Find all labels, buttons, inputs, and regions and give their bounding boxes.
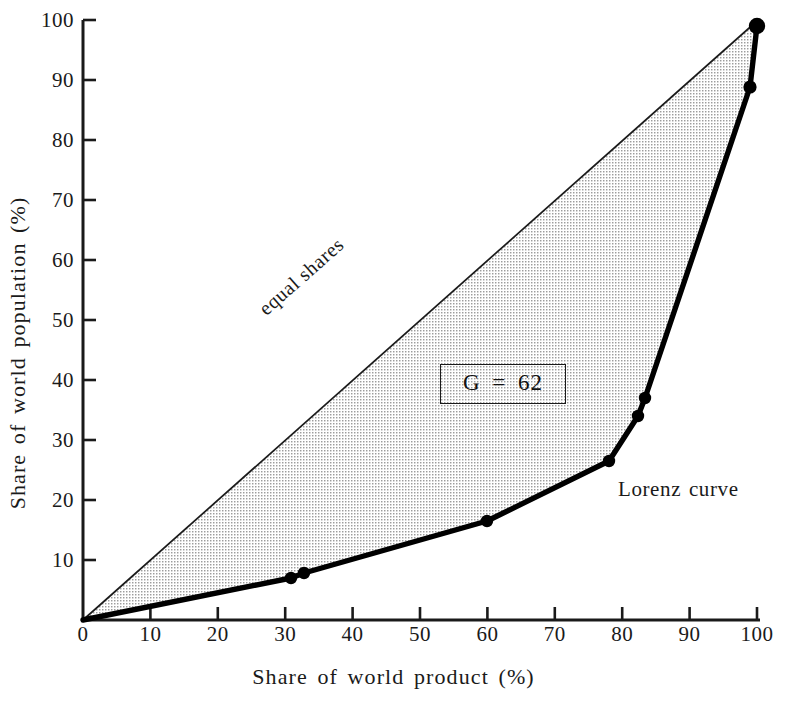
lorenz-curve-chart: 100 90 80 70 60 50 40 30 20 10 0 10 20 3… [0,0,787,706]
data-point [298,567,310,579]
x-tick-label-100: 100 [741,624,774,645]
data-point [743,80,756,93]
y-axis-ticks [83,20,96,560]
x-tick-label-20: 20 [207,624,229,645]
y-tick-label-50: 50 [52,310,74,331]
x-tick-label-30: 30 [274,624,296,645]
data-point [285,572,297,584]
data-point [632,410,644,422]
y-tick-label-40: 40 [52,370,74,391]
y-tick-label-60: 60 [52,250,74,271]
x-tick-label-50: 50 [409,624,431,645]
x-tick-label-70: 70 [544,624,566,645]
y-tick-label-30: 30 [52,430,74,451]
chart-canvas [0,0,787,706]
x-axis-ticks [150,607,757,620]
data-point [603,455,615,467]
y-tick-label-10: 10 [52,550,74,571]
x-axis-title: Share of world product (%) [252,664,535,690]
lorenz-curve-label: Lorenz curve [618,477,739,502]
x-tick-label-80: 80 [611,624,633,645]
y-axis-title: Share of world population (%) [5,197,31,510]
y-tick-label-100: 100 [41,10,74,31]
y-tick-label-80: 80 [52,130,74,151]
x-tick-label-40: 40 [342,624,364,645]
x-tick-label-0: 0 [78,624,89,645]
data-point [639,392,651,404]
x-tick-label-90: 90 [679,624,701,645]
data-point [749,18,765,34]
x-tick-label-10: 10 [139,624,161,645]
data-point [481,515,493,527]
y-tick-label-90: 90 [52,70,74,91]
x-tick-label-60: 60 [476,624,498,645]
gini-coefficient-box: G = 62 [440,364,566,404]
y-tick-label-70: 70 [52,190,74,211]
y-tick-label-20: 20 [52,490,74,511]
